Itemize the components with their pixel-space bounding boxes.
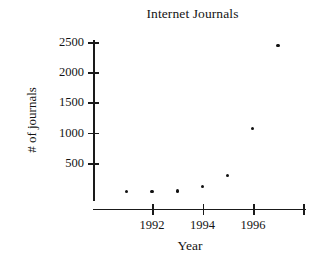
x-axis-line [93,209,306,211]
x-axis-title: Year [150,238,230,254]
data-point-1991 [125,190,128,193]
y-tick-label-2500: 2500 [46,36,84,48]
chart-figure: Internet Journals 2500 2000 1500 1000 50… [0,0,319,267]
y-axis-line [93,40,95,201]
y-tick-label-1500: 1500 [46,96,84,108]
y-tick-2500 [88,42,99,44]
x-tick-label-1996: 1996 [233,219,273,232]
x-tick-1992 [152,204,154,215]
data-point-1996 [251,127,254,130]
x-tick-1998 [303,204,305,215]
data-point-1992 [150,190,153,193]
x-tick-label-1992: 1992 [132,219,172,232]
y-tick-500 [88,163,99,165]
plot-area: 2500 2000 1500 1000 500 1992 1994 1996 [0,0,319,267]
y-tick-label-2000: 2000 [46,66,84,78]
x-tick-1996 [253,204,255,215]
x-tick-label-1994: 1994 [183,219,223,232]
y-tick-label-500: 500 [46,157,84,169]
y-tick-1000 [88,133,99,135]
data-point-1993 [176,189,179,192]
data-point-1997 [276,44,279,47]
y-tick-1500 [88,102,99,104]
y-tick-label-1000: 1000 [46,127,84,139]
data-point-1994 [201,185,204,188]
data-point-1995 [226,174,229,177]
y-axis-title: # of journals [24,60,40,180]
y-tick-2000 [88,72,99,74]
x-tick-1994 [203,204,205,215]
